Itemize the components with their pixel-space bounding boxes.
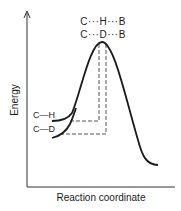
energy-curve-h [52,42,158,165]
x-axis-label: Reaction coordinate [57,192,146,203]
transition-state-label-h: C···H···B [80,16,126,27]
energy-diagram: Energy Reaction coordinate C···H···B C··… [0,0,181,211]
reactant-label-d: C—D [33,124,55,134]
reactant-label-h: C—H [33,110,55,120]
transition-state-label-d: C···D···B [80,29,126,40]
y-axis-label: Energy [9,84,20,116]
